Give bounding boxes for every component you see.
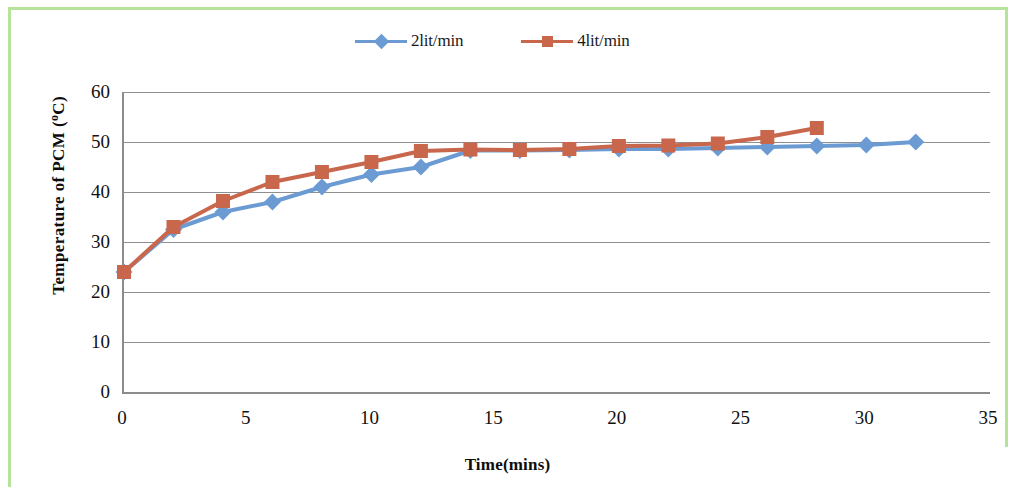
square-marker-icon [364,155,378,169]
y-tick-label-0: 0 [70,382,110,401]
y-tick-label-40: 40 [70,182,110,201]
y-tick-label-10: 10 [70,332,110,351]
square-marker-icon [315,165,329,179]
square-marker-icon [612,139,626,153]
diamond-marker-icon [412,159,429,176]
series-line-0 [124,142,916,272]
square-marker-icon [810,121,824,135]
x-axis-title: Time(mins) [0,455,1015,475]
y-tick-label-50: 50 [70,132,110,151]
square-marker-icon [711,137,725,151]
square-marker-icon [661,139,675,153]
x-tick-label-20: 20 [597,408,637,427]
square-marker-icon [216,194,230,208]
y-axis-title-tail: C) [49,96,68,115]
diamond-marker-icon [808,138,825,155]
square-marker-icon [117,265,131,279]
diamond-marker-icon [264,194,281,211]
diamond-marker-icon [907,134,924,151]
chart-page: 2lit/min 4lit/min 0102030405060 05101520… [0,0,1015,496]
square-marker-icon [414,144,428,158]
x-tick-label-10: 10 [349,408,389,427]
x-tick-label-30: 30 [844,408,884,427]
square-marker-icon [463,143,477,157]
series-layer [124,92,990,392]
chart-canvas: 0102030405060 05101520253035 Temperature… [0,0,1015,496]
plot-area [122,92,990,394]
y-tick-label-30: 30 [70,232,110,251]
diamond-marker-icon [858,137,875,154]
y-tick-label-20: 20 [70,282,110,301]
square-marker-icon [513,143,527,157]
x-axis-ticks: 05101520253035 [0,408,1015,434]
x-tick-label-35: 35 [968,408,1008,427]
degree-symbol-icon: o [47,115,61,121]
diamond-marker-icon [313,179,330,196]
square-marker-icon [760,130,774,144]
x-tick-label-25: 25 [721,408,761,427]
y-axis-title: Temperature of PCM (oC) [47,45,70,345]
x-tick-label-0: 0 [102,408,142,427]
x-tick-label-5: 5 [226,408,266,427]
y-axis-title-text: Temperature of PCM ( [49,121,68,295]
square-marker-icon [562,142,576,156]
x-tick-label-15: 15 [473,408,513,427]
series-4lit/min [117,121,824,279]
square-marker-icon [265,175,279,189]
square-marker-icon [166,220,180,234]
y-tick-label-60: 60 [70,82,110,101]
